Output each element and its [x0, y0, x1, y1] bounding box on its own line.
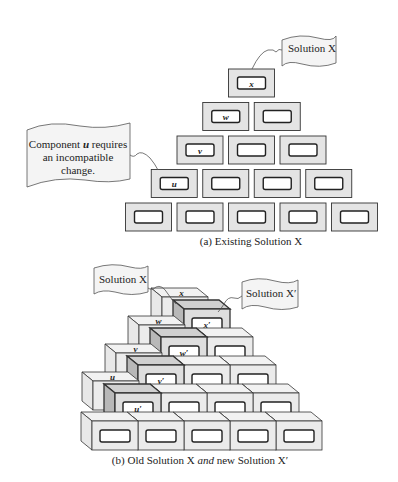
block-top-label: x [178, 288, 184, 298]
callout-leader [252, 49, 282, 69]
block-u: u [151, 170, 197, 198]
block [229, 203, 275, 231]
block [126, 203, 172, 231]
block-slot [284, 430, 314, 442]
caption-b: (b) Old Solution X and new Solution X′ [112, 454, 288, 467]
block [81, 412, 138, 450]
block-slot [135, 211, 163, 223]
callout-line-1-rest: requires [89, 138, 127, 150]
block-slot [263, 111, 291, 123]
callout-text: Solution X′ [246, 287, 296, 299]
caption-b-emphasis: and [197, 454, 214, 466]
block [229, 136, 275, 164]
block-top-label: u [110, 372, 115, 382]
block [254, 170, 300, 198]
callout-line-3: change. [61, 164, 95, 176]
block-slot [238, 430, 268, 442]
block-slot [289, 144, 317, 156]
block-slot [289, 211, 317, 223]
callout-line-1: Component u requires [29, 138, 127, 150]
block-label: u [172, 179, 177, 189]
block [203, 170, 249, 198]
block-label: w [223, 112, 230, 122]
block-slot [212, 178, 240, 190]
block [306, 170, 352, 198]
block-slot [263, 178, 291, 190]
caption-a: (a) Existing Solution X [200, 235, 302, 248]
callout-component-u: Component u requires an incompatible cha… [27, 123, 158, 187]
block-x: x [229, 69, 275, 97]
block-slot [146, 430, 176, 442]
diagram-canvas: xwvu xx′ww′vv′uu′ Solution X Component u… [0, 0, 398, 482]
caption-b-part-1: (b) Old Solution X [112, 454, 198, 467]
block-slot [192, 430, 222, 442]
block [332, 203, 378, 231]
figure-a-existing-solution: xwvu [126, 69, 378, 231]
figure-b-old-and-new-solution: xx′ww′vv′uu′ [81, 288, 322, 450]
callout-line-2: an incompatible [43, 151, 114, 163]
block-slot [100, 430, 130, 442]
block-v: v [177, 136, 223, 164]
block-w: w [203, 103, 249, 131]
callout-text: Solution X [99, 273, 147, 285]
block-slot [186, 211, 214, 223]
block-slot [341, 211, 369, 223]
block [280, 203, 326, 231]
callout-solution-x-prime: Solution X′ [218, 279, 298, 312]
block [254, 103, 300, 131]
callout-text: Solution X [288, 42, 336, 54]
block-slot [238, 211, 266, 223]
block [280, 136, 326, 164]
block-top-label: w [155, 316, 162, 326]
callout-line-1-text: Component [29, 138, 83, 150]
callout-leader [130, 153, 158, 170]
block-slot [315, 178, 343, 190]
callout-solution-x-a: Solution X [252, 36, 336, 69]
caption-b-part-3: new Solution X′ [214, 454, 288, 466]
block [177, 203, 223, 231]
block-slot [238, 144, 266, 156]
block-label: x [248, 79, 254, 89]
